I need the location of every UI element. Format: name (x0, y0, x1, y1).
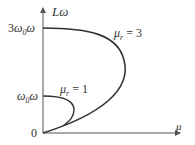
origin-label: 0 (31, 126, 37, 140)
curve-label-mur-3: μr = 3 (113, 26, 142, 42)
x-axis-label: μ (175, 120, 182, 132)
inductance-permeability-diagram: Lω μ 0 3ω0ω ω0ω μr = 3 μr = 1 (0, 0, 195, 145)
tick-label-w0w: ω0ω (17, 89, 38, 105)
tick-label-3w0w: 3ω0ω (8, 21, 35, 37)
curve-mur-1 (43, 96, 74, 126)
curve-label-mur-1: μr = 1 (59, 82, 88, 98)
curve-mur-3 (43, 28, 125, 133)
y-axis-label: Lω (51, 4, 68, 19)
